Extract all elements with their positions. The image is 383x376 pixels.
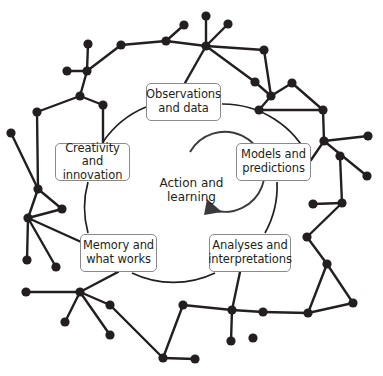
network-node: [105, 300, 114, 309]
arc-analyses-to-memory: [132, 273, 215, 282]
network-node: [266, 91, 275, 100]
network-node: [201, 41, 210, 50]
stage-box-creativity: Creativity and innovation: [55, 143, 130, 181]
network-node: [6, 128, 15, 137]
network-node: [178, 300, 187, 309]
network-node: [75, 287, 84, 296]
network-node: [287, 78, 296, 87]
stage-box-memory: Memory and what works: [80, 234, 157, 272]
network-node: [51, 262, 60, 271]
network-node: [303, 308, 312, 317]
network-node: [33, 184, 42, 193]
network-node: [322, 259, 331, 268]
network-node: [32, 107, 41, 116]
network-node: [82, 66, 91, 75]
stage-box-models: Models and predictions: [236, 143, 311, 181]
network-node: [22, 255, 31, 264]
network-node: [363, 131, 372, 140]
network-node: [254, 105, 263, 114]
network-node: [223, 19, 232, 28]
network-node: [226, 336, 235, 345]
arc-models-to-analyses: [265, 182, 277, 233]
network-node: [227, 305, 236, 314]
stage-box-observations: Observations and data: [146, 83, 221, 121]
network-node: [98, 100, 107, 109]
network-node: [105, 330, 114, 339]
network-node: [318, 105, 327, 114]
network-node: [60, 317, 69, 326]
network-node: [308, 199, 317, 208]
network-node: [259, 45, 268, 54]
center-label-action-and-learning: Action and learning: [145, 176, 238, 205]
network-node: [190, 354, 199, 363]
network-node: [57, 204, 66, 213]
network-node: [248, 333, 257, 342]
network-node: [362, 171, 371, 180]
network-node: [179, 20, 188, 29]
network-node: [161, 36, 170, 45]
network-node: [302, 232, 311, 241]
arc-creativity-to-observations: [103, 107, 146, 142]
network-node: [250, 77, 259, 86]
network-node: [23, 213, 32, 222]
network-node: [337, 198, 346, 207]
diagram-canvas: Observations and data Models and predict…: [0, 0, 383, 376]
stage-box-analyses: Analyses and interpretations: [209, 234, 291, 272]
network-node: [201, 11, 210, 20]
network-node: [348, 298, 357, 307]
network-node: [75, 91, 84, 100]
network-node: [83, 39, 92, 48]
network-node: [335, 151, 344, 160]
arc-memory-to-creativity: [85, 182, 88, 233]
network-node: [62, 66, 71, 75]
network-node: [258, 307, 267, 316]
network-node: [158, 353, 167, 362]
network-node: [21, 287, 30, 296]
network-node: [116, 40, 125, 49]
network-node: [319, 136, 328, 145]
